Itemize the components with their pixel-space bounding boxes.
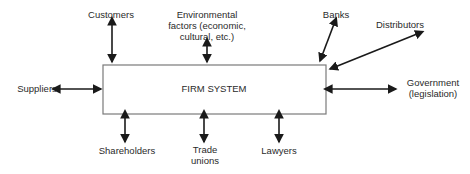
firm-system-node: FIRM SYSTEM	[103, 65, 326, 114]
banks-node: Banks	[320, 9, 349, 61]
trade-unions-node: Trade unions	[191, 117, 219, 166]
suppliers-label: Suppliers	[17, 83, 57, 94]
government-node: Government (legislation)	[331, 77, 459, 99]
shareholders-label: Shareholders	[99, 145, 156, 156]
environmental-label-line1: Environmental	[177, 9, 238, 20]
suppliers-node: Suppliers	[17, 83, 101, 94]
government-label-line1: Government	[407, 77, 460, 88]
trade-unions-label-line2: unions	[191, 155, 219, 166]
shareholders-node: Shareholders	[99, 117, 156, 156]
distributors-node: Distributors	[330, 19, 424, 69]
distributors-arrow	[330, 34, 417, 69]
lawyers-label: Lawyers	[261, 145, 297, 156]
customers-label: Customers	[88, 9, 134, 20]
lawyers-node: Lawyers	[261, 117, 297, 156]
government-label-line2: (legislation)	[409, 88, 458, 99]
trade-unions-label-line1: Trade	[193, 144, 217, 155]
banks-label: Banks	[323, 9, 350, 20]
environmental-label-line2: factors (economic,	[168, 20, 246, 31]
environmental-factors-node: Environmental factors (economic, cultura…	[168, 9, 246, 62]
firm-system-label: FIRM SYSTEM	[182, 83, 247, 94]
customers-node: Customers	[88, 9, 134, 62]
firm-system-diagram: FIRM SYSTEM Customers Environmental fact…	[0, 0, 470, 174]
banks-arrow	[320, 24, 334, 61]
distributors-label: Distributors	[376, 19, 424, 30]
environmental-label-line3: cultural, etc.)	[180, 31, 234, 42]
